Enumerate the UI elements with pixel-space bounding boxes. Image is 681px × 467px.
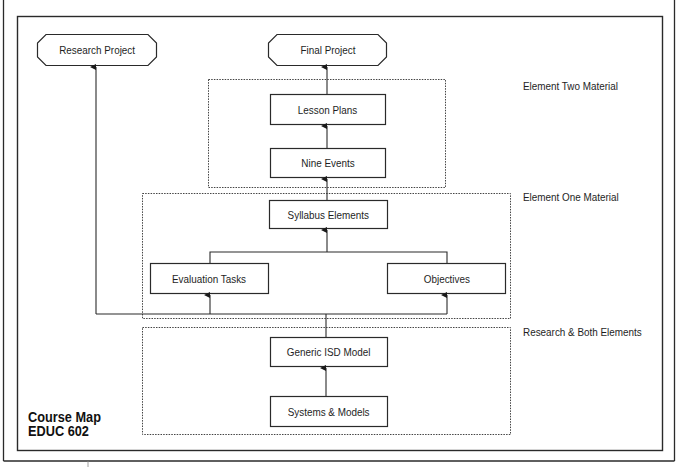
node-evaluation-tasks: Evaluation Tasks <box>150 263 269 294</box>
node-final-project-label: Final Project <box>300 44 355 56</box>
node-research-project-label: Research Project <box>59 44 135 56</box>
section-label-element-one: Element One Material <box>523 191 619 203</box>
node-lesson-plans-label: Lesson Plans <box>298 104 357 116</box>
node-research-project: Research Project <box>37 34 157 66</box>
node-systems-models: Systems & Models <box>270 396 388 427</box>
node-final-project: Final Project <box>268 34 387 66</box>
node-syllabus-elements-label: Syllabus Elements <box>288 209 369 221</box>
node-generic-isd-model-label: Generic ISD Model <box>287 346 371 358</box>
node-generic-isd-model: Generic ISD Model <box>270 337 388 367</box>
section-label-research-both: Research & Both Elements <box>523 326 642 338</box>
node-systems-models-label: Systems & Models <box>288 406 370 418</box>
section-label-element-two: Element Two Material <box>523 80 618 92</box>
connector-eval-merge <box>210 252 447 263</box>
node-nine-events-label: Nine Events <box>301 157 354 169</box>
node-lesson-plans: Lesson Plans <box>270 94 386 125</box>
node-objectives: Objectives <box>387 263 506 294</box>
node-evaluation-tasks-label: Evaluation Tasks <box>172 273 246 285</box>
node-nine-events: Nine Events <box>270 148 386 178</box>
node-syllabus-elements: Syllabus Elements <box>269 200 388 229</box>
title-line-2: EDUC 602 <box>28 424 101 438</box>
course-map-title: Course Map EDUC 602 <box>28 410 114 438</box>
node-objectives-label: Objectives <box>423 273 469 285</box>
